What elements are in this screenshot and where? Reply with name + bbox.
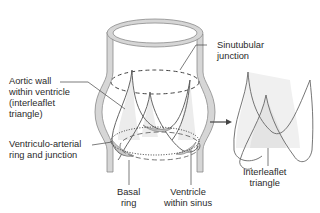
label-ventriculo-arterial-ring: Ventriculo-arterial ring and junction (9, 139, 81, 161)
label-basal-ring: Basal ring (117, 187, 140, 209)
leader-lines (60, 45, 268, 185)
aortic-tube (95, 32, 215, 172)
top-rim-inner (113, 23, 197, 43)
aortic-root-diagram: Sinutubular junction Aortic wall within … (0, 0, 320, 213)
label-ventricle-within-sinus: Ventricle within sinus (164, 187, 212, 209)
basal-ring (120, 132, 200, 160)
unrolled-leaflets (234, 72, 313, 169)
sinutubular-ring (111, 70, 199, 94)
label-aortic-wall: Aortic wall within ventricle (interleafl… (9, 76, 70, 120)
label-sinutubular-junction: Sinutubular junction (217, 40, 264, 62)
label-interleaflet-triangle: Interleaflet triangle (243, 167, 286, 189)
